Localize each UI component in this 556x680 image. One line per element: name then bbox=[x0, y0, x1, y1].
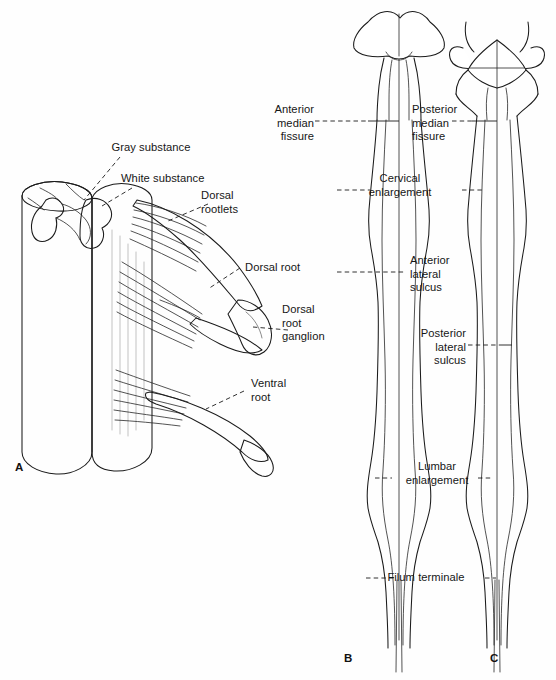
label-posterior-lateral-sulcus: Posterior lateral sulcus bbox=[404, 327, 466, 368]
label-lumbar-enlargement: Lumbar enlargement bbox=[379, 460, 495, 487]
label-dorsal-rootlets: Dorsal rootlets bbox=[201, 189, 271, 216]
dorsal-rootlets-fan bbox=[130, 203, 206, 271]
label-anterior-lateral-sulcus: Anterior lateral sulcus bbox=[410, 254, 472, 295]
figure-root: Gray substance White substance Dorsal ro… bbox=[0, 0, 556, 680]
label-filum-terminale: Filum terminale bbox=[370, 571, 482, 585]
label-cervical-enlargement: Cervical enlargement bbox=[341, 172, 459, 199]
panel-letter-c: C bbox=[490, 652, 498, 664]
panel-a-artwork bbox=[22, 182, 273, 477]
label-dorsal-root: Dorsal root bbox=[245, 261, 325, 275]
panel-letter-a: A bbox=[15, 461, 23, 473]
label-white-substance: White substance bbox=[121, 172, 231, 186]
label-posterior-median-fissure: Posterior median fissure bbox=[412, 103, 478, 144]
dorsal-rootlets-fan-2 bbox=[117, 262, 202, 348]
label-dorsal-root-ganglion: Dorsal root ganglion bbox=[282, 303, 344, 344]
label-anterior-median-fissure: Anterior median fissure bbox=[258, 103, 314, 144]
label-ventral-root: Ventral root bbox=[251, 377, 311, 404]
panel-letter-b: B bbox=[344, 652, 352, 664]
label-gray-substance: Gray substance bbox=[98, 141, 204, 155]
ventral-rootlets-fan bbox=[114, 370, 190, 426]
